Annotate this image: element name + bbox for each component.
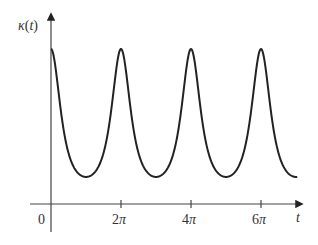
y-axis-label: κ(t): [18, 18, 38, 34]
curvature-curve: [51, 49, 297, 177]
origin-label: 0: [38, 212, 45, 227]
tick-label-4pi: 4π: [182, 212, 197, 227]
curvature-chart: κ(t) 0 2π 4π 6π t: [0, 0, 318, 245]
tick-label-2pi: 2π: [112, 212, 127, 227]
x-axis-label: t: [296, 210, 301, 225]
tick-label-6pi: 6π: [252, 212, 267, 227]
